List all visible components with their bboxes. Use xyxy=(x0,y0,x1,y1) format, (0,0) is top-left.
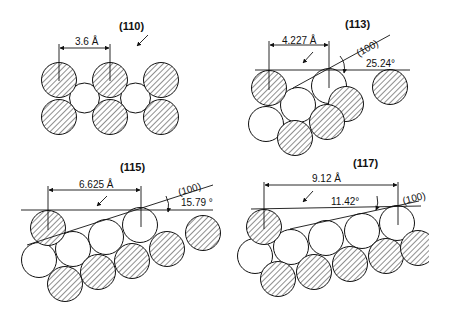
panel-title-110: (110) xyxy=(119,20,144,32)
surface-structure-diagram: (110) 3.6 Å (113) xyxy=(0,0,450,318)
panel-113: (113) 4.227 Å (100) 25.24° xyxy=(249,18,411,156)
panel-title-117: (117) xyxy=(353,157,378,169)
hatched-atom-clipped xyxy=(401,231,436,266)
angle-label-115: 15.79 ° xyxy=(181,197,213,208)
view-direction-arrow-icon xyxy=(137,35,148,46)
view-direction-arrow-icon xyxy=(303,191,313,202)
plane-label-115: (100) xyxy=(177,181,202,198)
panel-117: (117) 9.12 Å (100) 11.42° xyxy=(238,157,436,297)
plane-label-117: (100) xyxy=(401,190,426,206)
panel-title-113: (113) xyxy=(345,18,370,30)
angle-label-117: 11.42° xyxy=(331,196,359,207)
spacing-label-115: 6.625 Å xyxy=(79,178,114,190)
view-direction-arrow-icon xyxy=(303,52,313,63)
spacing-label-113: 4.227 Å xyxy=(282,34,317,46)
panel-title-115: (115) xyxy=(120,161,145,173)
plane-label-113: (100) xyxy=(354,38,380,59)
spacing-label-110: 3.6 Å xyxy=(75,35,99,47)
panel-115: (115) 6.625 Å (100) 15.79 ° xyxy=(21,161,221,302)
spacing-label-117: 9.12 Å xyxy=(312,172,341,184)
view-direction-arrow-icon xyxy=(97,196,107,206)
angle-label-113: 25.24° xyxy=(366,58,395,69)
panel-110: (110) 3.6 Å xyxy=(42,20,179,135)
